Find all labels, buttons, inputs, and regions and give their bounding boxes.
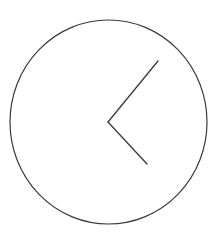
clock-hand-upper	[108, 61, 158, 122]
clock-icon	[0, 0, 218, 234]
clock-hand-lower	[108, 122, 147, 164]
clock-diagram	[0, 0, 218, 234]
